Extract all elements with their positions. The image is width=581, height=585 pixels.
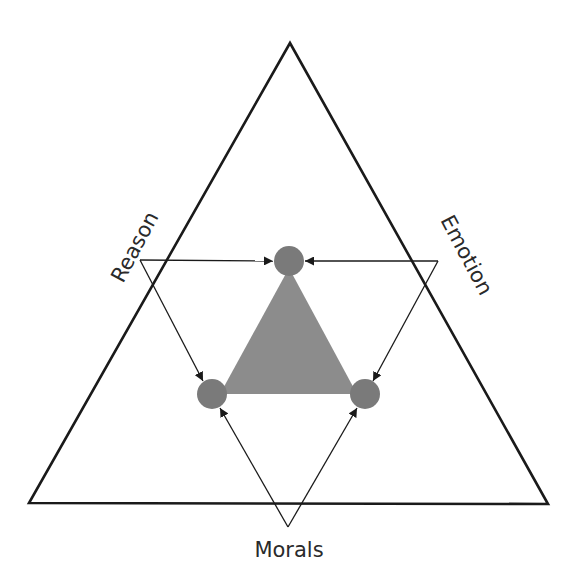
node-left <box>197 379 227 409</box>
arrow-morals-to-right <box>288 408 357 527</box>
label-reason: Reason <box>106 207 163 286</box>
node-top <box>274 246 304 276</box>
center-triangle <box>220 268 357 394</box>
label-morals: Morals <box>254 538 323 562</box>
node-right <box>350 379 380 409</box>
arrow-reason-to-top <box>140 260 273 261</box>
arrow-reason-to-left <box>140 260 203 381</box>
diagram-canvas: Reason Emotion Morals <box>0 0 581 585</box>
label-emotion: Emotion <box>436 211 498 299</box>
arrow-morals-to-left <box>220 408 288 527</box>
arrow-emotion-to-right <box>373 261 438 381</box>
